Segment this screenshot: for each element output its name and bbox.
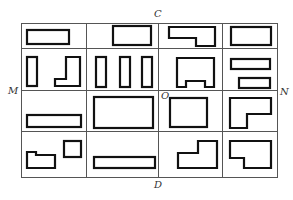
building-r2c1-l <box>55 57 80 86</box>
street-grid <box>21 23 278 178</box>
building-r2c2-c <box>142 57 152 87</box>
street-map-diagram: C D M N O <box>0 0 293 200</box>
building-r3c3 <box>170 98 207 127</box>
building-r3c1 <box>27 115 81 127</box>
building-r1c1 <box>27 30 69 44</box>
building-r4c1-square <box>64 141 81 157</box>
building-r2c3 <box>177 58 214 87</box>
building-r2c4-b <box>239 78 270 88</box>
label-c: C <box>154 8 162 19</box>
building-r1c3 <box>169 27 215 46</box>
buildings <box>27 26 271 168</box>
building-r4c4 <box>230 141 271 168</box>
building-r4c1-stepped <box>27 152 55 168</box>
building-r1c2 <box>113 26 151 45</box>
building-r2c2-b <box>120 57 130 87</box>
building-r2c4-a <box>231 59 270 69</box>
building-r2c1-tall <box>27 57 37 86</box>
label-d: D <box>153 179 162 190</box>
building-r3c2 <box>94 97 153 128</box>
building-r4c2 <box>94 157 155 168</box>
building-r2c2-a <box>96 57 106 87</box>
building-r3c4 <box>230 98 271 128</box>
label-n: N <box>279 86 290 97</box>
building-r1c4 <box>231 27 271 45</box>
label-o: O <box>161 90 169 101</box>
building-r4c3 <box>178 141 217 168</box>
grid-border <box>22 24 278 178</box>
label-m: M <box>7 85 19 96</box>
